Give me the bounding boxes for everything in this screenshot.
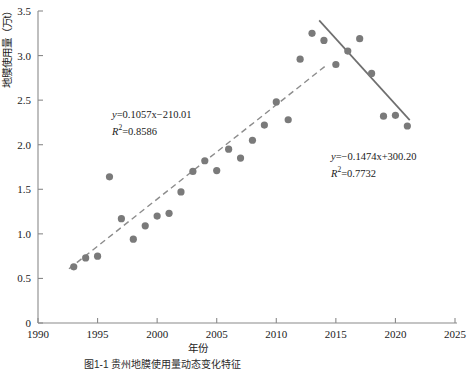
svg-text:2015: 2015 xyxy=(325,328,348,340)
svg-text:2.0: 2.0 xyxy=(17,139,31,151)
svg-text:3.0: 3.0 xyxy=(17,50,31,62)
svg-text:2.5: 2.5 xyxy=(17,94,31,106)
figure-caption: 图1-1 贵州地膜使用量动态变化特征 xyxy=(84,356,464,371)
falling-eq-body: =−0.1474x+300.20 xyxy=(336,151,417,162)
svg-text:1990: 1990 xyxy=(27,328,50,340)
rising-eq-body: =0.1057x−210.01 xyxy=(117,109,192,120)
x-axis-ticks: 19901995200020052010201520202025 xyxy=(27,318,467,340)
rising-trend-annotation: y=0.1057x−210.01 R2=0.8586 xyxy=(112,108,192,138)
y-axis-ticks: 00.51.01.52.02.53.03.5 xyxy=(17,5,43,329)
svg-text:2005: 2005 xyxy=(206,328,229,340)
svg-text:1.5: 1.5 xyxy=(17,183,31,195)
rising-r2-body: =0.8586 xyxy=(122,126,157,137)
svg-text:2025: 2025 xyxy=(444,328,467,340)
svg-text:1995: 1995 xyxy=(87,328,110,340)
svg-text:1.0: 1.0 xyxy=(17,228,31,240)
svg-text:3.5: 3.5 xyxy=(17,5,31,17)
svg-text:2020: 2020 xyxy=(384,328,407,340)
x-axis-label: 年份 xyxy=(188,340,208,355)
falling-r2-body: =0.7732 xyxy=(341,168,376,179)
falling-trend-annotation: y=−0.1474x+300.20 R2=0.7732 xyxy=(331,150,416,180)
svg-text:0.5: 0.5 xyxy=(17,272,31,284)
y-axis-label: 地膜使用量（万t） xyxy=(0,0,14,112)
trendlines-group xyxy=(69,20,410,268)
svg-text:2010: 2010 xyxy=(265,328,288,340)
svg-text:2000: 2000 xyxy=(146,328,169,340)
